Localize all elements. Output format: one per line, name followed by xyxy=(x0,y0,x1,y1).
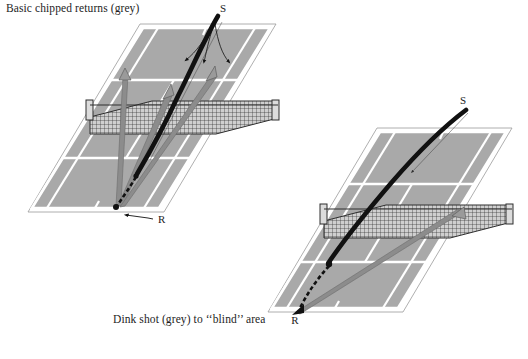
net-post-left xyxy=(86,100,93,120)
receiver-contact-point xyxy=(113,204,119,210)
receiver-movement-arrow xyxy=(126,215,153,219)
tennis-tactics-figure: Basic chipped returns (grey) Dink shot (… xyxy=(0,0,528,359)
net-post-right xyxy=(272,100,279,120)
net-post-left xyxy=(320,204,327,224)
net-post-right xyxy=(506,204,513,224)
server-label: S xyxy=(460,94,466,106)
court-top-left: S R xyxy=(28,2,279,225)
court-bottom-right: S R xyxy=(268,94,513,326)
receiver-label: R xyxy=(291,314,299,326)
receiver-label: R xyxy=(158,213,166,225)
server-label: S xyxy=(220,2,226,14)
diagram-canvas: S R xyxy=(0,0,528,359)
